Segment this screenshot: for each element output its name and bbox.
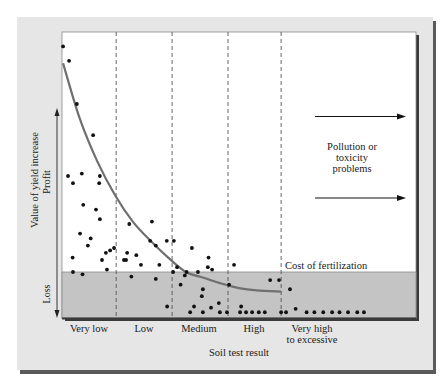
- data-point: [80, 172, 84, 176]
- data-point: [86, 244, 90, 248]
- data-point: [263, 310, 267, 314]
- data-point: [154, 244, 158, 248]
- cost-of-fertilization-label: Cost of fertilization: [285, 260, 368, 271]
- data-point: [71, 256, 75, 260]
- data-point: [185, 270, 189, 274]
- data-point: [171, 270, 175, 274]
- category-label-high: High: [244, 323, 266, 334]
- data-point: [239, 305, 243, 309]
- pollution-label-line-3: problems: [332, 163, 371, 174]
- y-axis-profit-label: Profit: [41, 170, 52, 194]
- data-point: [268, 278, 272, 282]
- data-point: [284, 310, 288, 314]
- data-point: [244, 310, 248, 314]
- data-point: [125, 251, 129, 255]
- data-point: [277, 278, 281, 282]
- data-point: [232, 263, 236, 267]
- data-point: [330, 310, 334, 314]
- data-point: [81, 203, 85, 207]
- data-point: [206, 265, 210, 269]
- data-point: [122, 258, 126, 262]
- data-point: [154, 277, 158, 281]
- x-axis-label: Soil test result: [209, 347, 269, 358]
- data-point: [67, 59, 71, 63]
- data-point: [190, 246, 194, 250]
- data-point: [104, 251, 108, 255]
- data-point: [108, 249, 112, 253]
- data-point: [346, 310, 350, 314]
- data-point: [165, 239, 169, 243]
- data-point: [91, 133, 95, 137]
- data-point: [165, 305, 169, 309]
- data-point: [78, 232, 82, 236]
- data-point: [157, 263, 161, 267]
- data-point: [100, 258, 104, 262]
- data-point: [179, 283, 183, 287]
- data-point: [134, 253, 138, 257]
- data-point: [294, 307, 298, 311]
- data-point: [217, 301, 221, 305]
- data-point: [201, 310, 205, 314]
- data-point: [105, 268, 109, 272]
- data-point: [257, 310, 261, 314]
- pollution-label-line-2: toxicity: [336, 152, 369, 163]
- data-point: [61, 45, 65, 49]
- data-point: [148, 239, 152, 243]
- data-point: [196, 270, 200, 274]
- category-label-low: Low: [134, 323, 154, 334]
- data-point: [127, 222, 131, 226]
- data-point: [225, 310, 229, 314]
- data-point: [338, 310, 342, 314]
- data-point: [98, 217, 102, 221]
- data-point: [150, 220, 154, 224]
- data-point: [139, 263, 143, 267]
- y-axis-loss-label: Loss: [41, 284, 52, 303]
- data-point: [175, 265, 179, 269]
- data-point: [321, 310, 325, 314]
- data-point: [355, 310, 359, 314]
- data-point: [210, 268, 214, 272]
- data-point: [279, 310, 283, 314]
- data-point: [218, 310, 222, 314]
- data-point: [227, 283, 231, 287]
- data-point: [209, 306, 213, 310]
- data-point: [97, 181, 101, 185]
- data-point: [172, 239, 176, 243]
- data-point: [200, 294, 204, 298]
- data-point: [129, 275, 133, 279]
- data-point: [71, 270, 75, 274]
- data-point: [75, 102, 79, 106]
- data-point: [288, 287, 292, 291]
- category-label-medium: Medium: [181, 323, 217, 334]
- data-point: [207, 256, 211, 260]
- data-point: [305, 310, 309, 314]
- category-label-very-low: Very low: [70, 323, 109, 334]
- data-point: [250, 310, 254, 314]
- data-point: [183, 274, 187, 278]
- data-point: [238, 310, 242, 314]
- data-point: [362, 310, 366, 314]
- data-point: [89, 237, 93, 241]
- data-point: [188, 310, 192, 314]
- data-point: [71, 181, 75, 185]
- y-axis-label: Value of yield increase: [29, 132, 40, 228]
- chart-svg: Value of yield increase Profit Loss Cost…: [0, 0, 448, 391]
- category-label-very-high: Very high: [291, 323, 333, 334]
- category-label-to-excessive: to excessive: [286, 334, 337, 345]
- data-point: [192, 305, 196, 309]
- data-point: [81, 272, 85, 276]
- pollution-label-line-1: Pollution or: [327, 141, 377, 152]
- data-point: [66, 174, 70, 178]
- data-point: [94, 208, 98, 212]
- data-point: [98, 174, 102, 178]
- data-point: [201, 287, 205, 291]
- chart-figure: Value of yield increase Profit Loss Cost…: [0, 0, 448, 391]
- data-point: [313, 310, 317, 314]
- data-point: [112, 246, 116, 250]
